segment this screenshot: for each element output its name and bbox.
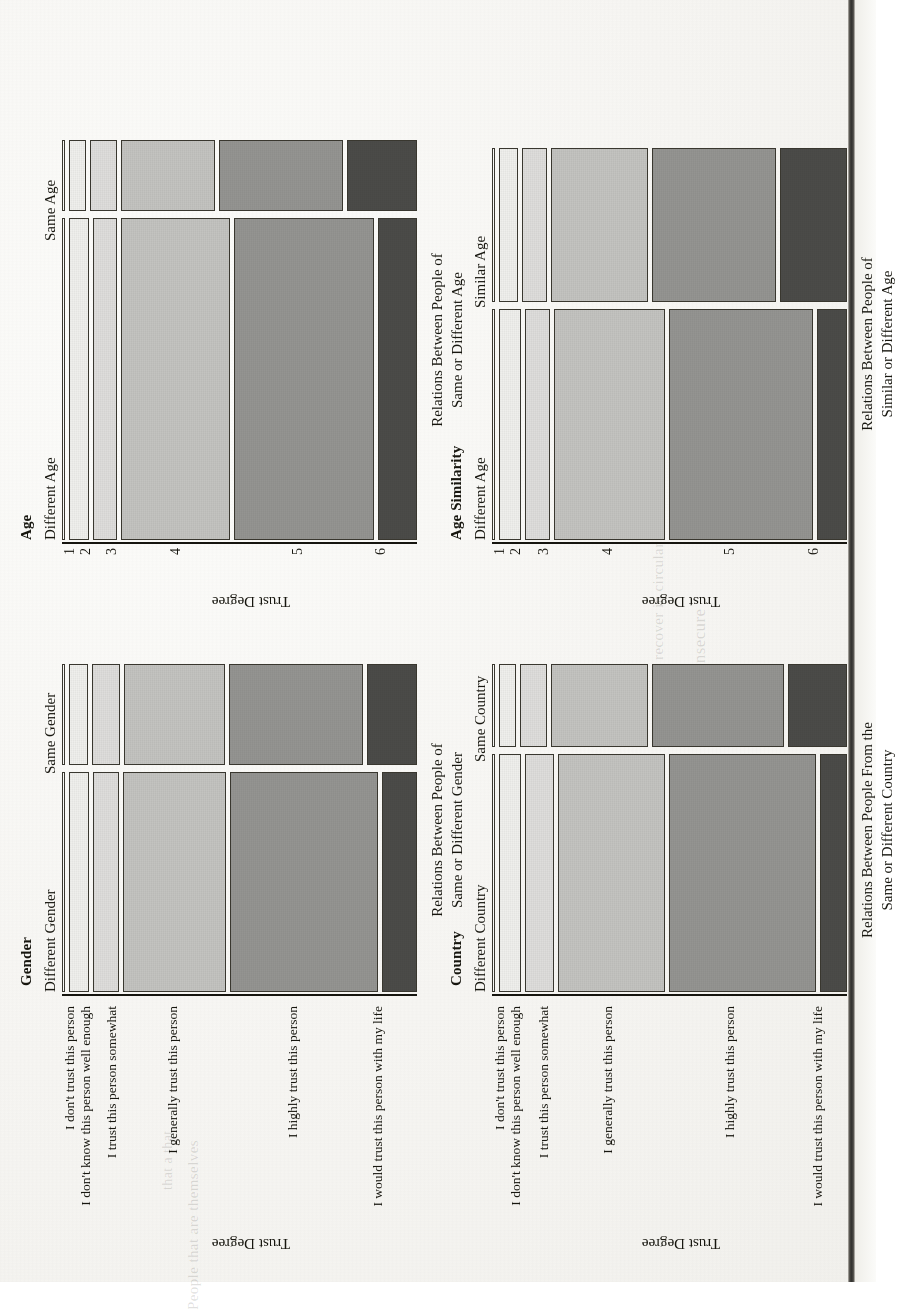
mosaic-tile-gender-col2-level5 xyxy=(229,664,363,765)
panel-country: Country Different Country Same Country I… xyxy=(470,664,855,1224)
panel-age-tick-3: 3 xyxy=(104,548,120,602)
panel-gender-column-different: Different Gender xyxy=(42,889,59,992)
panel-gender-ylabel: Trust Degree xyxy=(212,1235,290,1252)
panel-country-tick-1: I don't trust this person xyxy=(492,1006,508,1234)
mosaic-tile-country-col2-level6 xyxy=(788,664,847,747)
panel-age-similarity-title: Age Similarity xyxy=(448,446,465,540)
panel-gender-title: Gender xyxy=(18,937,35,986)
mosaic-tile-age-col1-level2 xyxy=(69,218,89,540)
mosaic-tile-country-col1-level3 xyxy=(525,754,553,992)
mosaic-tile-age-col1-level6 xyxy=(378,218,417,540)
mosaic-tile-age-col1-level5 xyxy=(234,218,375,540)
mosaic-tile-age-similarity-col1-level2 xyxy=(499,309,521,540)
panel-gender-tick-6: I would trust this person with my life xyxy=(370,1006,386,1234)
mosaic-tile-gender-col2-level1 xyxy=(62,664,65,765)
panel-age-similarity-xlabel-line2: Similar or Different Age xyxy=(878,148,898,540)
panel-gender-column-same: Same Gender xyxy=(42,693,59,774)
panel-age-similarity-tick-1: 1 xyxy=(492,548,508,602)
panel-gender: Gender Different Gender Same Gender I do… xyxy=(40,664,425,1224)
mosaic-tile-age-col2-level2 xyxy=(69,140,86,211)
mosaic-tile-gender-col1-level6 xyxy=(382,772,417,992)
panel-age-tick-5: 5 xyxy=(290,548,306,602)
panel-country-xlabel-line2: Same or Different Country xyxy=(878,664,898,996)
mosaic-tile-country-col1-level5 xyxy=(669,754,816,992)
panel-country-ylabel: Trust Degree xyxy=(642,1235,720,1252)
mosaic-tile-country-col2-level4 xyxy=(551,664,648,747)
panel-age-ylabel: Trust Degree xyxy=(212,593,290,610)
mosaic-tile-age-col2-level5 xyxy=(219,140,343,211)
mosaic-tile-gender-col1-level5 xyxy=(230,772,377,992)
mosaic-tile-age-col2-level3 xyxy=(90,140,117,211)
panel-age-axis xyxy=(62,542,417,544)
mosaic-tile-age-col1-level1 xyxy=(62,218,65,540)
panel-age-similarity-xlabel: Relations Between People of Similar or D… xyxy=(858,148,898,540)
mosaic-tile-age-col2-level1 xyxy=(62,140,65,211)
panel-age-similarity-tick-6: 6 xyxy=(806,548,822,602)
panel-country-xlabel-line1: Relations Between People From the xyxy=(858,664,878,996)
mosaic-tile-gender-col1-level1 xyxy=(62,772,65,992)
mosaic-tile-country-col2-level5 xyxy=(652,664,784,747)
mosaic-tile-age-similarity-col1-level3 xyxy=(525,309,550,540)
mosaic-tile-country-col2-level3 xyxy=(520,664,547,747)
mosaic-tile-age-similarity-col1-level6 xyxy=(817,309,847,540)
panel-age-similarity-tick-4: 4 xyxy=(600,548,616,602)
mosaic-tile-gender-col2-level3 xyxy=(92,664,120,765)
panel-country-tick-3: I trust this person somewhat xyxy=(536,1006,552,1234)
mosaic-tile-age-similarity-col2-level6 xyxy=(780,148,847,302)
mosaic-tile-age-col1-level3 xyxy=(93,218,116,540)
panel-country-mosaic xyxy=(492,664,847,992)
mosaic-tile-age-similarity-col1-level4 xyxy=(554,309,665,540)
panel-age-tick-2: 2 xyxy=(78,548,94,602)
panel-age-similarity-ylabel: Trust Degree xyxy=(642,593,720,610)
panel-country-column-different: Different Country xyxy=(472,884,489,992)
panel-age-title: Age xyxy=(18,515,35,540)
mosaic-tile-gender-col1-level3 xyxy=(93,772,118,992)
panel-country-title: Country xyxy=(448,931,465,986)
mosaic-tile-gender-col2-level2 xyxy=(69,664,87,765)
panel-country-tick-5: I highly trust this person xyxy=(722,1006,738,1234)
panel-age-similarity-axis xyxy=(492,542,847,544)
mosaic-tile-country-col1-level2 xyxy=(499,754,521,992)
panel-gender-tick-1: I don't trust this person xyxy=(62,1006,78,1234)
mosaic-tile-age-similarity-col2-level2 xyxy=(499,148,517,302)
panel-gender-tick-3: I trust this person somewhat xyxy=(104,1006,120,1234)
panel-age-column-same: Same Age xyxy=(42,180,59,241)
mosaic-tile-age-col2-level4 xyxy=(121,140,215,211)
panel-country-xlabel: Relations Between People From the Same o… xyxy=(858,664,898,996)
panel-age-similarity: Age Similarity Different Age Similar Age… xyxy=(470,54,855,596)
mosaic-tile-age-similarity-col2-level4 xyxy=(551,148,648,302)
mosaic-tile-country-col1-level6 xyxy=(820,754,847,992)
panel-age-similarity-tick-2: 2 xyxy=(508,548,524,602)
panel-age-tick-6: 6 xyxy=(373,548,389,602)
mosaic-tile-country-col2-level1 xyxy=(492,664,495,747)
mosaic-tile-age-similarity-col1-level5 xyxy=(669,309,813,540)
panel-age-similarity-tick-5: 5 xyxy=(722,548,738,602)
panel-gender-tick-5: I highly trust this person xyxy=(285,1006,301,1234)
mosaic-tile-gender-col2-level4 xyxy=(124,664,225,765)
panel-age-mosaic xyxy=(62,140,417,540)
panel-age-xlabel-line1: Relations Between People of xyxy=(428,140,448,540)
panel-gender-xlabel-line1: Relations Between People of xyxy=(428,664,448,996)
panel-age-tick-1: 1 xyxy=(62,548,78,602)
panel-gender-axis xyxy=(62,994,417,996)
panel-age-tick-4: 4 xyxy=(168,548,184,602)
panel-age-column-different: Different Age xyxy=(42,457,59,540)
mosaic-tile-age-col2-level6 xyxy=(347,140,417,211)
panel-gender-mosaic xyxy=(62,664,417,992)
panel-age-similarity-column-similar: Similar Age xyxy=(472,236,489,308)
mosaic-tile-country-col1-level4 xyxy=(558,754,665,992)
mosaic-tile-age-similarity-col2-level3 xyxy=(522,148,547,302)
panel-age: Age Different Age Same Age 1 2 3 4 5 6 T… xyxy=(40,54,425,596)
panel-gender-tick-4: I generally trust this person xyxy=(165,1006,181,1234)
panel-country-tick-4: I generally trust this person xyxy=(600,1006,616,1234)
panel-age-similarity-mosaic xyxy=(492,148,847,540)
mosaic-figure-grid: Gender Different Gender Same Gender I do… xyxy=(40,54,840,1224)
panel-age-similarity-column-different: Different Age xyxy=(472,457,489,540)
panel-country-tick-2: I don't know this person well enough xyxy=(508,1006,524,1234)
mosaic-tile-age-similarity-col2-level5 xyxy=(652,148,776,302)
mosaic-tile-gender-col1-level2 xyxy=(69,772,89,992)
panel-age-similarity-xlabel-line1: Relations Between People of xyxy=(858,148,878,540)
mosaic-tile-gender-col2-level6 xyxy=(367,664,417,765)
panel-country-column-same: Same Country xyxy=(472,676,489,762)
